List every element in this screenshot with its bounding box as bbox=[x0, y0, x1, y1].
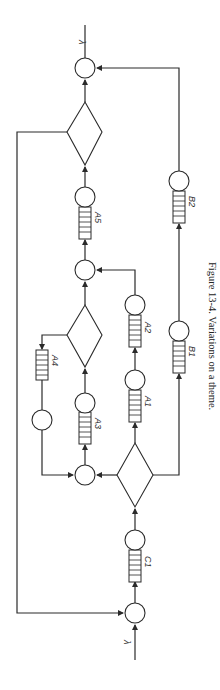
queue-a3 bbox=[75, 393, 95, 444]
input-lambda-label: λ bbox=[122, 639, 132, 644]
output-merge-node bbox=[75, 58, 95, 78]
label-a1: A1 bbox=[143, 395, 153, 407]
decision-diamond-bottom bbox=[117, 443, 153, 507]
edge-b2-to-output bbox=[97, 68, 179, 171]
server-a1 bbox=[125, 370, 145, 390]
output-lambda-label: λ bbox=[77, 39, 87, 44]
decision-diamond-top bbox=[67, 102, 102, 165]
server-a3 bbox=[75, 393, 95, 413]
server-b2 bbox=[169, 171, 189, 191]
queue-a5 bbox=[75, 187, 95, 239]
queue-b2 bbox=[169, 171, 189, 223]
label-b1: B1 bbox=[187, 346, 197, 357]
queue-c1 bbox=[125, 530, 145, 582]
upper-join-node bbox=[75, 260, 95, 280]
label-a3: A3 bbox=[93, 417, 103, 429]
label-a5: A5 bbox=[93, 211, 103, 224]
input-merge-node bbox=[125, 603, 145, 623]
server-a5 bbox=[75, 187, 95, 207]
queue-b1 bbox=[169, 321, 189, 373]
edge-a4-to-lower-join bbox=[42, 430, 73, 475]
label-c1: C1 bbox=[143, 556, 153, 568]
queue-a2 bbox=[125, 295, 145, 347]
queueing-network-diagram: λ λ A5 B2 A2 B1 A4 A1 A3 C1 Figure 13-4.… bbox=[0, 0, 220, 690]
server-a4 bbox=[32, 410, 52, 430]
queue-a1 bbox=[125, 370, 145, 422]
queue-a4 bbox=[32, 350, 52, 430]
edge-diamond-to-a4 bbox=[42, 335, 67, 349]
decision-diamond-middle bbox=[67, 305, 102, 367]
label-b2: B2 bbox=[187, 196, 197, 207]
label-a4: A4 bbox=[50, 354, 60, 366]
server-b1 bbox=[169, 321, 189, 341]
edge-a2-to-join bbox=[97, 270, 135, 295]
figure-caption: Figure 13-4. Variations on a theme. bbox=[207, 262, 218, 410]
label-a2: A2 bbox=[143, 321, 153, 333]
server-a2 bbox=[125, 295, 145, 315]
lower-join-node bbox=[75, 465, 95, 485]
feedback-loop bbox=[17, 132, 123, 613]
edge-diamond-to-b1 bbox=[153, 374, 179, 475]
server-c1 bbox=[125, 530, 145, 550]
